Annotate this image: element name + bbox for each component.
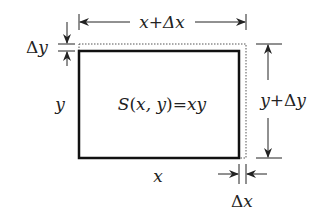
left-delta-dimension: Δy xyxy=(26,22,75,66)
bottom-delta-label: Δx xyxy=(231,191,253,211)
right-label: y+Δy xyxy=(259,90,306,110)
top-label: x+Δx xyxy=(139,12,185,32)
top-dimension: x+Δx xyxy=(79,12,246,32)
bottom-label: x xyxy=(153,166,163,186)
center-label: S(x, y)=xy xyxy=(118,94,207,114)
area-diagram: x+Δx Δy y S(x, y)=xy y+Δy x Δx xyxy=(0,0,326,223)
bottom-delta-dimension: Δx xyxy=(218,164,267,211)
right-dimension: y+Δy xyxy=(256,44,306,158)
left-delta-label: Δy xyxy=(26,37,48,57)
left-label: y xyxy=(54,94,65,114)
